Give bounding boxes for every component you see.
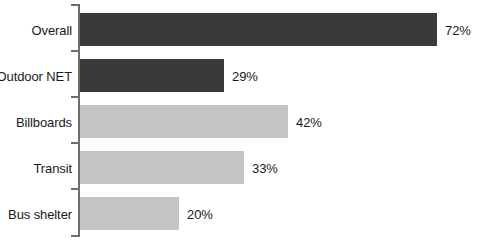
category-label: Overall: [32, 22, 72, 37]
axis-tick: [71, 4, 78, 6]
bar[interactable]: [80, 151, 244, 184]
axis-tick: [71, 188, 78, 190]
axis-tick: [71, 96, 78, 98]
axis-tick: [71, 142, 78, 144]
axis-bottom-tick: [71, 235, 80, 237]
bar-value-label: 20%: [187, 206, 213, 221]
bar-row[interactable]: Billboards42%: [0, 105, 478, 138]
category-label: Transit: [33, 160, 72, 175]
axis-tick: [71, 50, 78, 52]
bar[interactable]: [80, 13, 437, 46]
bar[interactable]: [80, 105, 288, 138]
category-label: Bus shelter: [8, 206, 72, 221]
category-label: Outdoor NET: [0, 68, 72, 83]
bar-row[interactable]: Bus shelter20%: [0, 197, 478, 230]
bar-value-label: 72%: [445, 22, 471, 37]
bar-row[interactable]: Overall72%: [0, 13, 478, 46]
bar-value-label: 42%: [296, 114, 322, 129]
bar[interactable]: [80, 59, 224, 92]
bar-value-label: 33%: [252, 160, 278, 175]
bar-value-label: 29%: [232, 68, 258, 83]
bar-row[interactable]: Outdoor NET29%: [0, 59, 478, 92]
bar-row[interactable]: Transit33%: [0, 151, 478, 184]
bar-chart: Overall72%Outdoor NET29%Billboards42%Tra…: [0, 0, 478, 248]
category-label: Billboards: [16, 114, 72, 129]
bar[interactable]: [80, 197, 179, 230]
